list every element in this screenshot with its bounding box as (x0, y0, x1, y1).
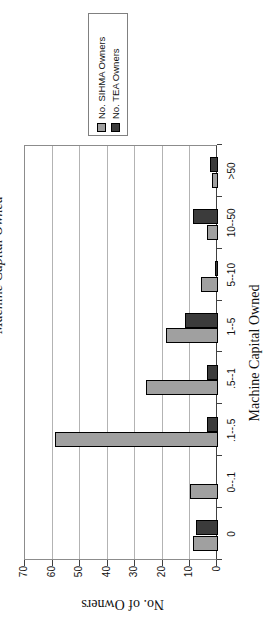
category-label-1: 0--.1 (226, 456, 237, 508)
plot-area (24, 145, 217, 560)
xtick-mark-8 (217, 144, 222, 145)
gridline-40 (107, 146, 108, 559)
bar-tea-5 (215, 261, 218, 276)
category-label-0: 0 (226, 508, 237, 560)
gridline-30 (134, 146, 135, 559)
category-label-7: >50 (226, 145, 237, 197)
xtick-mark-3 (217, 403, 222, 404)
ytick-label-70: 70 (19, 566, 29, 592)
category-label-3: .5--1 (226, 353, 237, 405)
bar-sihma-4 (166, 328, 218, 343)
ytick-label-50: 50 (74, 566, 84, 592)
bar-tea-4 (185, 313, 218, 328)
legend-item-sihma: No. SIHMA Owners (96, 17, 107, 132)
legend-item-tea: No. TEA Owners (110, 17, 121, 132)
ytick-mark-0 (216, 560, 217, 566)
ytick-label-60: 60 (47, 566, 57, 592)
ytick-mark-10 (189, 560, 190, 566)
legend-swatch-tea-icon (111, 123, 120, 132)
bar-sihma-0 (193, 536, 218, 551)
ytick-label-30: 30 (129, 566, 139, 592)
bar-sihma-1 (190, 484, 218, 499)
ytick-label-20: 20 (157, 566, 167, 592)
ytick-label-10: 10 (184, 566, 194, 592)
xtick-mark-4 (217, 352, 222, 353)
ytick-mark-30 (134, 560, 135, 566)
legend-label-tea: No. TEA Owners (110, 48, 121, 119)
xtick-mark-7 (217, 196, 222, 197)
bar-tea-2 (207, 417, 218, 432)
gridline-60 (52, 146, 53, 559)
bar-tea-6 (193, 209, 218, 224)
x-axis-title: Machine Capital Owned (247, 248, 263, 458)
chart-title-clipped: Machine Capital Owned (0, 150, 6, 380)
xtick-mark-0 (217, 559, 222, 560)
ytick-mark-70 (24, 560, 25, 566)
xtick-mark-5 (217, 300, 222, 301)
category-label-4: 1--5 (226, 301, 237, 353)
bar-sihma-5 (201, 277, 218, 292)
ytick-mark-60 (52, 560, 53, 566)
category-label-2: .1--.5 (226, 404, 237, 456)
xtick-mark-1 (217, 507, 222, 508)
y-axis-title: No. of Owners (58, 593, 188, 615)
ytick-mark-40 (107, 560, 108, 566)
bar-sihma-7 (212, 173, 218, 188)
ytick-label-40: 40 (102, 566, 112, 592)
ytick-mark-50 (79, 560, 80, 566)
bar-sihma-3 (146, 380, 218, 395)
bar-sihma-6 (207, 225, 218, 240)
bar-sihma-2 (55, 432, 218, 447)
bar-tea-0 (196, 520, 218, 535)
category-label-6: 10--50 (226, 197, 237, 249)
xtick-mark-6 (217, 248, 222, 249)
ytick-label-0: 0 (212, 566, 222, 592)
bar-tea-3 (207, 365, 218, 380)
chart-canvas: Machine Capital Owned No. of Owners Mach… (0, 0, 271, 618)
gridline-20 (162, 146, 163, 559)
bar-tea-7 (210, 157, 218, 172)
legend-swatch-sihma-icon (97, 123, 106, 132)
legend-box: No. SIHMA Owners No. TEA Owners (88, 13, 128, 136)
ytick-mark-20 (162, 560, 163, 566)
gridline-50 (79, 146, 80, 559)
category-label-5: 5--10 (226, 249, 237, 301)
legend-label-sihma: No. SIHMA Owners (96, 37, 107, 119)
xtick-mark-2 (217, 455, 222, 456)
rotated-bar-chart-page: Machine Capital Owned No. of Owners Mach… (0, 0, 271, 618)
